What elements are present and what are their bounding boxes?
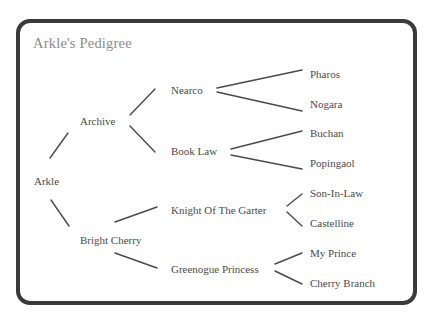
connector-book-law-to-buchan [231,131,302,149]
node-nearco: Nearco [171,84,203,96]
connector-arkle-to-bright-cherry [51,200,69,226]
connector-knight-of-the-garter-to-son-in-law [287,194,302,206]
node-buchan: Buchan [310,127,344,139]
connector-greenogue-princess-to-my-prince [275,253,302,264]
connector-knight-of-the-garter-to-castelline [287,212,302,226]
connector-nearco-to-pharos [217,70,302,88]
node-nogara: Nogara [310,98,342,110]
connector-archive-to-nearco [130,89,155,115]
connector-arkle-to-archive [50,133,68,158]
connector-bright-cherry-to-knight-of-the-garter [115,207,157,222]
node-knight-of-the-garter: Knight Of The Garter [171,204,266,216]
connector-greenogue-princess-to-cherry-branch [275,271,302,284]
node-popingaol: Popingaol [310,157,355,169]
connector-bright-cherry-to-greenogue-princess [115,253,157,268]
node-castelline: Castelline [310,217,354,229]
connector-nearco-to-nogara [217,92,302,111]
node-arkle: Arkle [34,175,59,187]
node-greenogue-princess: Greenogue Princess [171,263,259,275]
node-cherry-branch: Cherry Branch [310,277,375,289]
node-pharos: Pharos [310,68,340,80]
node-bright-cherry: Bright Cherry [80,234,141,246]
node-son-in-law: Son-In-Law [310,187,363,199]
node-book-law: Book Law [171,145,217,157]
connector-book-law-to-popingaol [231,155,302,169]
node-my-prince: My Prince [310,247,356,259]
connector-archive-to-book-law [130,126,155,152]
node-archive: Archive [80,115,115,127]
